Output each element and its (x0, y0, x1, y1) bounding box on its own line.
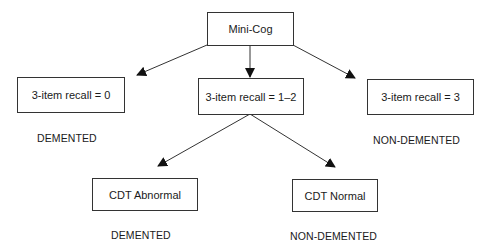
recall-3-node: 3-item recall = 3 (367, 79, 474, 115)
recall-0-node: 3-item recall = 0 (17, 77, 125, 113)
cdt-abnormal-label: CDT Abnormal (109, 189, 181, 201)
cdt-abnormal-outcome: DEMENTED (111, 229, 171, 241)
mini-cog-label: Mini-Cog (228, 23, 272, 35)
arrow-root-to-recall-0 (137, 45, 207, 75)
arrow-root-to-recall-3 (293, 45, 355, 78)
recall-0-outcome: DEMENTED (37, 132, 97, 144)
arrow-recall-to-cdt-abnormal (158, 114, 250, 166)
recall-1-2-label: 3-item recall = 1–2 (206, 91, 297, 103)
recall-3-outcome: NON-DEMENTED (373, 134, 460, 146)
cdt-normal-outcome: NON-DEMENTED (290, 230, 377, 242)
arrow-recall-to-cdt-normal (250, 114, 335, 167)
recall-0-label: 3-item recall = 0 (32, 89, 111, 101)
recall-3-label: 3-item recall = 3 (381, 91, 460, 103)
cdt-abnormal-node: CDT Abnormal (92, 178, 198, 211)
cdt-normal-label: CDT Normal (305, 190, 366, 202)
recall-1-2-node: 3-item recall = 1–2 (198, 78, 304, 115)
mini-cog-node: Mini-Cog (207, 12, 294, 46)
cdt-normal-node: CDT Normal (292, 179, 378, 212)
